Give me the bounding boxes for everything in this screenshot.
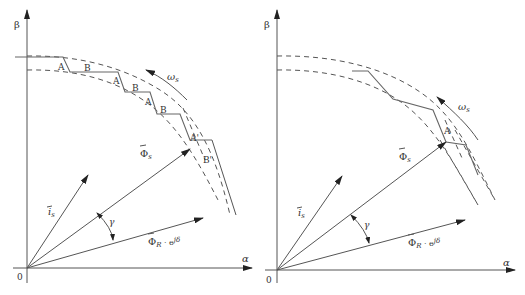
omega-label: ωs (167, 71, 179, 84)
segment-label-a: A (144, 97, 152, 107)
stator-current-vector (27, 175, 88, 268)
flux-trajectory-diagrams: β α 0 A B A B A B A' B' ωs is Φs ΦR · ej… (0, 0, 525, 295)
beta-axis-label: β (14, 19, 20, 30)
stator-current-vector (277, 176, 342, 270)
vector-bar (140, 145, 146, 146)
segment-label-a-prime: A' (189, 133, 199, 143)
outer-flux-band-segment (455, 130, 495, 200)
stator-flux-vector (277, 142, 446, 270)
omega-label: ωs (458, 101, 470, 114)
rotor-flux-vector (277, 220, 465, 270)
stator-flux-trajectory (15, 57, 212, 140)
vector-bar (408, 234, 414, 235)
stator-flux-label: Φs (140, 148, 152, 161)
gamma-label: γ (364, 220, 370, 230)
vector-bar (399, 148, 405, 149)
stator-flux-trajectory (352, 71, 478, 175)
segment-label-b: B (132, 83, 139, 93)
segment-label-a: A (443, 126, 451, 136)
origin-label: 0 (266, 275, 272, 285)
left-panel: β α 0 A B A B A B A' B' ωs is Φs ΦR · ej… (13, 10, 252, 283)
origin-label: 0 (17, 272, 23, 282)
right-panel: β α 0 A ωs is Φs ΦR · ejδ γ (264, 10, 515, 285)
stator-current-label: is (298, 207, 305, 220)
gamma-label: γ (109, 217, 115, 227)
segment-label-b: B (160, 105, 167, 115)
stator-flux-label: Φs (399, 151, 411, 164)
rotor-flux-label: ΦR · ejδ (408, 237, 440, 250)
alpha-axis-label: α (242, 253, 249, 264)
segment-label-b: B (84, 63, 91, 73)
segment-label-a: A (57, 62, 65, 72)
beta-axis-label: β (264, 19, 270, 30)
alpha-axis-label: α (503, 257, 510, 268)
inner-flux-band-segment (440, 140, 478, 205)
inner-flux-band (277, 70, 478, 205)
outer-flux-band (27, 56, 230, 215)
rotor-flux-label: ΦR · ejδ (148, 236, 180, 249)
segment-label-a: A (112, 76, 120, 86)
trajectory-continuation (212, 140, 236, 215)
stator-current-label: is (48, 206, 55, 219)
segment-label-b-prime: B' (203, 155, 212, 165)
stator-flux-vector (27, 149, 190, 268)
